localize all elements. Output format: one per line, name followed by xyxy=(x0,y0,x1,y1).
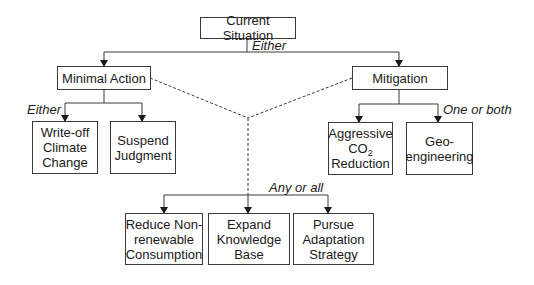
node-mitigation: Mitigation xyxy=(352,66,448,90)
node-label: Mitigation xyxy=(372,71,428,86)
node-aggressive-co2-reduction: Aggressive CO2 Reduction xyxy=(328,122,393,175)
node-current-situation: Current Situation xyxy=(200,17,296,39)
node-label-line: Change xyxy=(41,155,90,170)
node-suspend-judgment: Suspend Judgment xyxy=(110,121,176,174)
node-label-line: Base xyxy=(217,247,281,262)
edge-label-any-or-all: Any or all xyxy=(269,180,323,195)
node-expand-knowledge-base: Expand Knowledge Base xyxy=(208,213,290,265)
node-label-line: Strategy xyxy=(302,247,364,262)
node-label-line: Reduction xyxy=(328,156,392,171)
edge-label-minimal-either: Either xyxy=(27,102,61,117)
node-label-line: Reduce Non- xyxy=(126,217,203,232)
node-label-line: Geo- xyxy=(406,134,474,149)
edge-label-mitigation-one-or-both: One or both xyxy=(443,102,512,117)
node-reduce-nonrenewable-consumption: Reduce Non- renewable Consumption xyxy=(125,213,203,265)
node-minimal-action: Minimal Action xyxy=(57,66,151,90)
node-geo-engineering: Geo- engineering xyxy=(406,122,473,175)
node-label-line: Suspend xyxy=(114,133,171,148)
node-label: Minimal Action xyxy=(62,71,146,86)
node-label-line: Pursue xyxy=(302,217,364,232)
node-label-line: Aggressive xyxy=(328,126,392,141)
node-label-line: Judgment xyxy=(114,148,171,163)
node-label-line: Write-off xyxy=(41,125,90,140)
node-label-line: renewable xyxy=(126,232,203,247)
node-label-line: Climate xyxy=(41,140,90,155)
node-label-line: Knowledge xyxy=(217,232,281,247)
node-label-line: CO2 xyxy=(328,141,392,156)
node-label-line: Expand xyxy=(217,217,281,232)
edge-label-root-either: Either xyxy=(252,38,286,53)
node-label-line: engineering xyxy=(406,149,474,164)
node-pursue-adaptation-strategy: Pursue Adaptation Strategy xyxy=(293,213,374,265)
node-label-line: Consumption xyxy=(126,247,203,262)
node-write-off-climate-change: Write-off Climate Change xyxy=(32,121,98,174)
node-label-line: Adaptation xyxy=(302,232,364,247)
